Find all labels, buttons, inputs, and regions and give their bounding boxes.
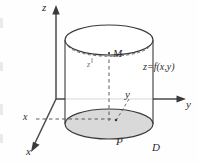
figure-root: z y x x y M z P D z=f(x,y) — [0, 0, 198, 164]
region-label-D: D — [152, 142, 160, 153]
point-label-P: P — [116, 136, 123, 147]
axis-label-y: y — [186, 99, 191, 110]
point-M-dot — [108, 52, 110, 54]
z-axis-arrowhead — [52, 5, 59, 15]
surface-equation-label: z=f(x,y) — [143, 62, 174, 72]
x-axis-line — [35, 99, 56, 143]
axis-label-z: z — [42, 2, 46, 13]
y-axis-arrowhead — [177, 96, 187, 103]
axis-label-x: x — [26, 146, 31, 157]
axis-label-y-inner: y — [125, 89, 130, 100]
point-P-dot — [115, 119, 118, 122]
x-axis-arrowhead — [31, 142, 40, 152]
coordinate-diagram — [0, 0, 198, 164]
point-label-M: M — [113, 48, 122, 59]
axis-label-x-inner: x — [23, 112, 27, 122]
top-z-marker-label: z — [87, 61, 90, 69]
